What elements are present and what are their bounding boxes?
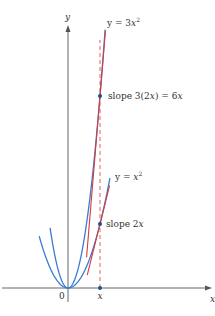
y-axis-arrow-icon (66, 25, 71, 32)
curve-label-3x2: y = 3x2 (106, 16, 140, 28)
x-axis-arrow-icon (205, 286, 212, 291)
derivative-diagram: y x 0 x y = 3x2 y = x2 slope 3(2x) = 6x … (0, 0, 215, 316)
y-axis-label: y (64, 12, 71, 22)
tangent-point-3x2 (98, 94, 102, 98)
x-point-label: x (98, 291, 103, 301)
tangent-line-x2 (87, 186, 109, 276)
origin-label: 0 (59, 291, 65, 301)
tangent-line-3x2 (87, 31, 106, 258)
tangent-label-2x: slope 2x (106, 219, 144, 229)
tangent-label-6x: slope 3(2x) = 6x (108, 91, 182, 101)
x-axis-label: x (210, 294, 215, 304)
tangent-point-x2 (98, 222, 102, 226)
tangents-group (87, 31, 110, 275)
curves-group (39, 30, 110, 288)
curve-x2 (39, 178, 110, 288)
curve-label-x2: y = x2 (114, 170, 142, 182)
x-point-marker (98, 286, 102, 290)
curve-3x2 (50, 30, 105, 288)
